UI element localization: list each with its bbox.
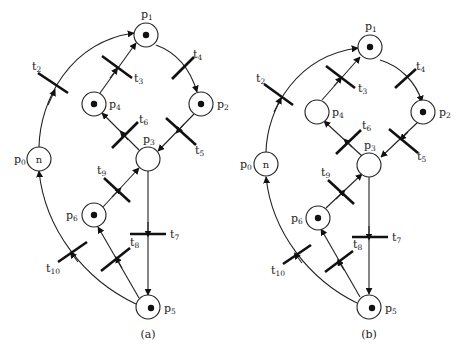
place-p5[interactable]	[357, 295, 381, 319]
token	[143, 32, 149, 38]
label-p1: p1	[141, 8, 153, 22]
place-p0[interactable]: n	[27, 147, 51, 171]
transition-t5[interactable]	[166, 118, 196, 145]
arc-p0-p1	[39, 33, 134, 147]
label-p6: p6	[291, 212, 303, 226]
arc-p6-p3	[103, 168, 139, 207]
transition-t5[interactable]	[389, 129, 418, 153]
transition-t3[interactable]	[326, 66, 355, 88]
place-p0[interactable]: n	[254, 152, 278, 176]
arc-p6-p3	[326, 174, 362, 208]
label-p3: p3	[364, 139, 376, 153]
arc-p5-t8-mid	[339, 262, 344, 270]
arc-p4-t3-mid	[110, 70, 116, 78]
label-t4: t4	[193, 48, 202, 62]
label-p4: p4	[332, 106, 344, 120]
token	[315, 215, 321, 221]
label-p5: p5	[385, 302, 397, 316]
label-t6: t6	[139, 113, 148, 127]
arc-p5-p0	[39, 171, 136, 304]
transition-t10[interactable]	[283, 245, 311, 264]
token	[367, 44, 373, 50]
place-p2[interactable]	[411, 100, 435, 124]
transition-t9[interactable]	[328, 180, 354, 204]
label-t9: t9	[97, 164, 106, 178]
token	[420, 109, 426, 115]
label-t9: t9	[321, 166, 330, 180]
label-t5: t5	[417, 150, 426, 164]
place-p1[interactable]	[134, 23, 158, 47]
token-count-n: n	[263, 159, 270, 170]
label-t2: t2	[32, 60, 41, 74]
transition-t4[interactable]	[395, 69, 416, 88]
label-p2: p2	[217, 98, 229, 112]
place-p6[interactable]	[82, 203, 106, 227]
token	[369, 305, 375, 311]
panel-a: n p0 p1 p2 p3 p4 p5 p6	[14, 8, 229, 341]
label-p0: p0	[240, 158, 252, 172]
label-t8: t8	[353, 238, 362, 252]
label-t6: t6	[362, 119, 371, 133]
arc-p2-p3	[158, 114, 194, 151]
arc-p4-t3-mid	[334, 79, 340, 86]
label-p4: p4	[109, 98, 121, 112]
arc-p3-p4	[102, 113, 139, 150]
place-p1[interactable]	[358, 35, 382, 59]
arc-p2-t5-mid	[402, 132, 408, 138]
label-t7: t7	[392, 231, 401, 245]
label-p2: p2	[439, 106, 451, 120]
arc-p0-t2-mid	[48, 92, 54, 105]
petri-net-figure: n p0 p1 p2 p3 p4 p5 p6	[0, 0, 460, 354]
place-p2[interactable]	[189, 92, 213, 116]
label-p6: p6	[66, 209, 78, 223]
panel-b: n p0 p1 p2 p3 p4 p5 p6 t2	[240, 20, 451, 341]
label-t7: t7	[170, 228, 179, 242]
transition-t6[interactable]	[112, 122, 138, 148]
label-t3: t3	[358, 82, 367, 96]
arc-p1-p2	[156, 45, 197, 92]
place-p4[interactable]	[305, 100, 329, 124]
label-p3: p3	[143, 133, 155, 147]
caption-a: (a)	[140, 328, 155, 341]
arc-p3-p4	[324, 121, 362, 156]
transition-t2[interactable]	[38, 73, 68, 93]
label-t8: t8	[130, 236, 139, 250]
place-p3[interactable]	[357, 153, 381, 177]
label-t5: t5	[195, 144, 204, 158]
label-t4: t4	[416, 60, 425, 74]
place-p3[interactable]	[136, 147, 160, 171]
transition-t8[interactable]	[101, 248, 130, 271]
token	[198, 101, 204, 107]
transition-t10[interactable]	[58, 242, 87, 262]
label-p1: p1	[365, 20, 377, 34]
label-p0: p0	[14, 153, 26, 167]
arc-p2-p3	[381, 122, 418, 157]
place-p4[interactable]	[82, 92, 106, 116]
transition-t6[interactable]	[336, 130, 361, 154]
label-p5: p5	[164, 302, 176, 316]
token	[148, 305, 154, 311]
token-count-n: n	[36, 154, 43, 165]
place-p6[interactable]	[306, 206, 330, 230]
transition-t3[interactable]	[102, 56, 132, 78]
place-p5[interactable]	[136, 295, 160, 319]
label-t10: t10	[46, 262, 60, 276]
label-t3: t3	[134, 72, 143, 86]
label-t10: t10	[271, 264, 285, 278]
arc-p0-t2-mid	[274, 100, 280, 112]
arc-p5-t8-mid	[117, 259, 122, 268]
transition-t8[interactable]	[325, 251, 353, 272]
token	[91, 101, 97, 107]
token	[91, 212, 97, 218]
label-t2: t2	[256, 72, 265, 86]
caption-b: (b)	[361, 328, 377, 341]
